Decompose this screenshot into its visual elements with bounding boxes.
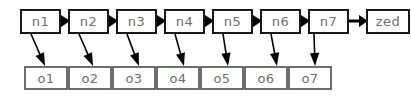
- output-o2[interactable]: o2: [69, 67, 111, 89]
- output-label-o1: o1: [37, 71, 54, 86]
- node-label-n7: n7: [320, 14, 338, 29]
- output-o1[interactable]: o1: [25, 67, 67, 89]
- drop-arrow-line: [31, 34, 41, 57]
- drop-arrow-head: [36, 52, 45, 66]
- drop-arrow-head: [130, 52, 139, 66]
- drop-arrow-head: [176, 52, 185, 66]
- diagram-canvas: n1n2n3n4n5n6n7zedo1o2o3o4o5o6o7: [0, 0, 411, 99]
- drop-arrow-line: [314, 34, 315, 56]
- node-n4[interactable]: n4: [165, 10, 204, 33]
- drop-arrow-line: [127, 34, 135, 57]
- drop-arrow-line: [175, 34, 181, 56]
- node-zed[interactable]: zed: [367, 10, 409, 33]
- output-o3[interactable]: o3: [113, 67, 155, 89]
- output-label-o7: o7: [301, 71, 318, 86]
- output-o6[interactable]: o6: [245, 67, 287, 89]
- output-o5[interactable]: o5: [201, 67, 243, 89]
- drop-arrow-n6-to-o6: [270, 34, 279, 66]
- node-label-n4: n4: [176, 14, 194, 29]
- output-label-o6: o6: [257, 71, 274, 86]
- drop-arrow-line: [223, 34, 226, 56]
- drop-arrow-line: [271, 34, 275, 56]
- output-o7[interactable]: o7: [289, 67, 331, 89]
- node-label-n5: n5: [224, 14, 242, 29]
- node-label-zed: zed: [376, 14, 401, 29]
- drop-arrow-line: [79, 34, 89, 57]
- drop-arrow-n7-to-o7: [310, 34, 319, 66]
- drop-arrow-n1-to-o1: [31, 34, 45, 66]
- linked-list-diagram: n1n2n3n4n5n6n7zedo1o2o3o4o5o6o7: [0, 0, 411, 99]
- output-label-o2: o2: [81, 71, 98, 86]
- node-n6[interactable]: n6: [261, 10, 300, 33]
- drop-arrow-n3-to-o3: [127, 34, 139, 66]
- drop-arrow-head: [84, 52, 93, 66]
- drop-arrow-head: [221, 52, 230, 66]
- drop-arrow-head: [310, 53, 319, 66]
- node-n3[interactable]: n3: [117, 10, 156, 33]
- node-n7[interactable]: n7: [309, 10, 348, 33]
- output-label-o4: o4: [169, 71, 186, 86]
- drop-arrow-n2-to-o2: [79, 34, 93, 66]
- drop-arrow-n5-to-o5: [221, 34, 230, 66]
- node-n5[interactable]: n5: [213, 10, 252, 33]
- node-label-n2: n2: [80, 14, 98, 29]
- node-label-n6: n6: [272, 14, 290, 29]
- output-o4[interactable]: o4: [157, 67, 199, 89]
- output-label-o5: o5: [213, 71, 230, 86]
- drop-arrow-n4-to-o4: [175, 34, 185, 66]
- node-label-n1: n1: [32, 14, 50, 29]
- output-label-o3: o3: [125, 71, 142, 86]
- node-n1[interactable]: n1: [21, 10, 60, 33]
- node-label-n3: n3: [128, 14, 146, 29]
- node-n2[interactable]: n2: [69, 10, 108, 33]
- drop-arrow-head: [270, 52, 279, 66]
